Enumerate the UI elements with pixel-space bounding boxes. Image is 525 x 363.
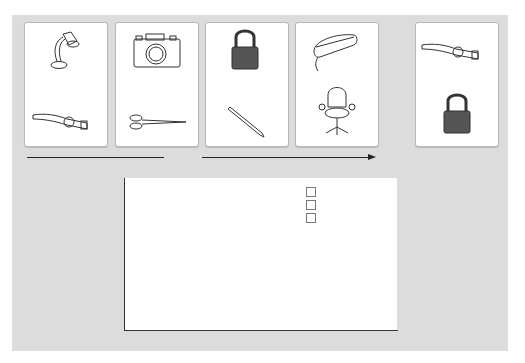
y-axis <box>124 178 125 330</box>
frontal-swatch-icon <box>306 200 316 210</box>
control-swatch-icon <box>306 187 316 197</box>
sequence-card-4 <box>295 22 379 147</box>
temporal-swatch-icon <box>306 213 316 223</box>
sequence-card-1 <box>24 22 108 147</box>
figure-panel <box>12 15 508 351</box>
padlock-icon <box>444 95 470 133</box>
office-chair-icon <box>319 88 355 136</box>
sequence-card-3 <box>205 22 289 147</box>
plot-area <box>125 178 397 330</box>
legend-item-control <box>306 185 322 198</box>
legend <box>306 185 322 224</box>
desk-lamp-icon <box>51 32 79 69</box>
legend-item-temporal <box>306 211 322 224</box>
timeline-line-right <box>202 157 370 158</box>
pen-icon <box>228 107 264 137</box>
padlock-icon <box>232 31 258 69</box>
sequence-card-2 <box>115 22 199 147</box>
scissors-icon <box>130 115 186 129</box>
timeline-arrow-icon <box>368 154 376 160</box>
camera-icon <box>134 34 180 67</box>
timeline-line-left <box>27 157 164 158</box>
legend-item-frontal <box>306 198 322 211</box>
wristwatch-icon <box>33 114 87 129</box>
telephone-icon <box>314 35 357 71</box>
test-card <box>415 22 499 147</box>
wristwatch-icon <box>422 44 478 59</box>
x-axis <box>124 330 398 331</box>
